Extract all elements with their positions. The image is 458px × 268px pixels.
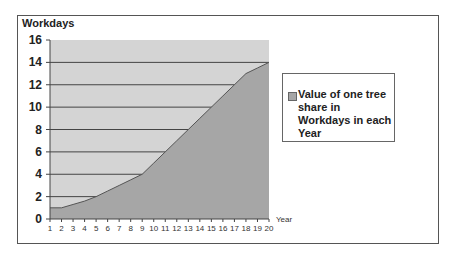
x-tick-label: 9 bbox=[140, 224, 145, 233]
x-tick-label: 19 bbox=[253, 224, 262, 233]
legend-label: Value of one tree share in Workdays in e… bbox=[298, 88, 394, 140]
x-tick-label: 12 bbox=[172, 224, 181, 233]
legend: Value of one tree share in Workdays in e… bbox=[282, 73, 395, 142]
x-axis-title: Year bbox=[276, 215, 293, 224]
x-tick-label: 4 bbox=[82, 224, 87, 233]
legend-swatch bbox=[288, 92, 297, 101]
y-tick-label: 6 bbox=[35, 145, 42, 159]
x-tick-label: 14 bbox=[195, 224, 204, 233]
x-tick-label: 15 bbox=[207, 224, 216, 233]
x-tick-label: 18 bbox=[241, 224, 250, 233]
x-tick-label: 2 bbox=[59, 224, 64, 233]
x-tick-label: 11 bbox=[161, 224, 170, 233]
y-tick-label: 16 bbox=[29, 33, 43, 47]
x-tick-label: 13 bbox=[184, 224, 193, 233]
y-tick-label: 2 bbox=[35, 190, 42, 204]
y-tick-label: 10 bbox=[29, 100, 43, 114]
x-tick-label: 6 bbox=[105, 224, 110, 233]
x-tick-label: 7 bbox=[117, 224, 122, 233]
y-tick-label: 12 bbox=[29, 78, 43, 92]
y-tick-label: 0 bbox=[35, 212, 42, 226]
x-tick-label: 5 bbox=[94, 224, 99, 233]
x-tick-label: 17 bbox=[230, 224, 239, 233]
y-tick-label: 8 bbox=[35, 123, 42, 137]
x-tick-label: 10 bbox=[149, 224, 158, 233]
x-tick-label: 3 bbox=[71, 224, 76, 233]
x-tick-label: 1 bbox=[48, 224, 53, 233]
y-tick-label: 14 bbox=[29, 55, 43, 69]
x-tick-label: 16 bbox=[218, 224, 227, 233]
x-tick-label: 8 bbox=[128, 224, 133, 233]
y-tick-label: 4 bbox=[35, 167, 42, 181]
x-tick-label: 20 bbox=[265, 224, 274, 233]
